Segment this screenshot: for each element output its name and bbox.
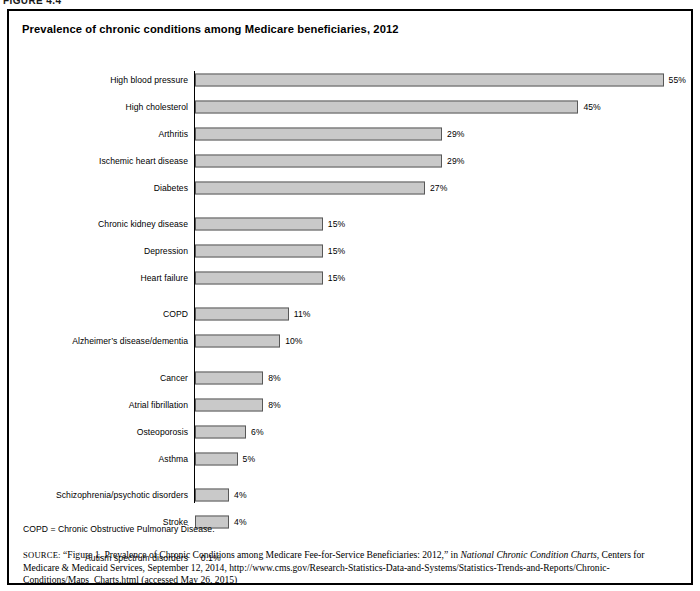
bar-row: Depression15% xyxy=(9,238,691,265)
bar-category-label: Diabetes xyxy=(154,183,188,193)
bar xyxy=(195,335,280,348)
bar-value-label: 27% xyxy=(430,183,447,193)
bar-row: Arthritis29% xyxy=(9,120,691,147)
bar-category-label: Cancer xyxy=(160,373,188,383)
bar-row: Heart failure15% xyxy=(9,265,691,292)
bar xyxy=(195,371,263,384)
bar-value-label: 5% xyxy=(243,454,256,464)
bar xyxy=(195,100,578,113)
bar-value-label: 15% xyxy=(328,246,345,256)
bar-value-label: 29% xyxy=(447,129,464,139)
bar-category-label: Osteoporosis xyxy=(137,427,188,437)
bar-row: Asthma5% xyxy=(9,445,691,472)
bar-value-label: 6% xyxy=(251,427,264,437)
bar-row: Atrial fibrillation8% xyxy=(9,391,691,418)
bar-category-label: COPD xyxy=(163,309,188,319)
bar xyxy=(195,272,323,285)
bar xyxy=(195,154,442,167)
page-title: Prevalence of chronic conditions among M… xyxy=(22,23,399,35)
bar-row: Alzheimer’s disease/dementia10% xyxy=(9,328,691,355)
bar xyxy=(195,425,246,438)
bar-category-label: Schizophrenia/psychotic disorders xyxy=(56,490,188,500)
source-note: SOURCE: “Figure 1. Prevalence of Chronic… xyxy=(23,549,683,586)
bar xyxy=(195,398,263,411)
bar-value-label: 8% xyxy=(268,373,281,383)
bar-row: COPD11% xyxy=(9,301,691,328)
bar-value-label: 11% xyxy=(294,309,311,319)
bar xyxy=(195,452,238,465)
bar-value-label: 4% xyxy=(234,517,247,527)
figure-number: FIGURE 4.4 xyxy=(3,0,61,6)
bar xyxy=(195,218,323,231)
bar-value-label: 4% xyxy=(234,490,247,500)
bar-value-label: 45% xyxy=(583,102,600,112)
bar-category-label: Ischemic heart disease xyxy=(99,156,188,166)
bar-row: Schizophrenia/psychotic disorders4% xyxy=(9,481,691,508)
chart-footnote: COPD = Chronic Obstructive Pulmonary Dis… xyxy=(23,524,215,534)
bar xyxy=(195,73,664,86)
bar-row: Osteoporosis6% xyxy=(9,418,691,445)
bar-category-label: Depression xyxy=(144,246,188,256)
bar-row: Cancer8% xyxy=(9,364,691,391)
bar-value-label: 29% xyxy=(447,156,464,166)
bar-row: Chronic kidney disease15% xyxy=(9,211,691,238)
bar-category-label: Chronic kidney disease xyxy=(98,219,188,229)
bar xyxy=(195,308,289,321)
bar-category-label: High cholesterol xyxy=(126,102,188,112)
bar-chart-plot-area: High blood pressure55%High cholesterol45… xyxy=(9,64,691,509)
source-text-part-1: “Figure 1. Prevalence of Chronic Conditi… xyxy=(63,549,460,560)
bar-value-label: 10% xyxy=(285,336,302,346)
bar xyxy=(195,127,442,140)
bar-category-label: Heart failure xyxy=(141,273,188,283)
bar-row: Diabetes27% xyxy=(9,174,691,201)
bar-value-label: 55% xyxy=(669,75,686,85)
bar-category-label: Atrial fibrillation xyxy=(129,400,188,410)
bar-value-label: 8% xyxy=(268,400,281,410)
bar-row: Ischemic heart disease29% xyxy=(9,147,691,174)
source-publication-title: National Chronic Condition Charts xyxy=(460,549,596,560)
bar xyxy=(195,181,425,194)
bar-category-label: Arthritis xyxy=(158,129,188,139)
bar-category-label: High blood pressure xyxy=(110,75,188,85)
bar xyxy=(195,245,323,258)
figure-frame: Prevalence of chronic conditions among M… xyxy=(7,9,693,585)
bar xyxy=(195,488,229,501)
source-label: SOURCE: xyxy=(23,550,61,560)
bar-value-label: 15% xyxy=(328,273,345,283)
bar-value-label: 15% xyxy=(328,219,345,229)
bar-row: High cholesterol45% xyxy=(9,93,691,120)
bar-category-label: Asthma xyxy=(159,454,188,464)
bar-row: High blood pressure55% xyxy=(9,66,691,93)
bar-category-label: Alzheimer’s disease/dementia xyxy=(72,336,188,346)
